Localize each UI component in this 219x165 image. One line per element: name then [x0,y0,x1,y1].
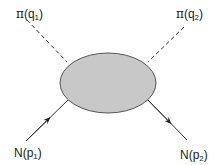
pion-in-line [27,20,67,62]
interaction-blob [60,53,156,113]
pion-out-line [148,27,184,62]
label-pion-out: π(q2) [176,7,203,22]
label-pion-in: π(q1) [16,7,43,22]
nucleon-out-line [145,97,187,140]
label-nucleon-in: N(p1) [14,146,42,161]
feynman-diagram: π(q1) π(q2) N(p1) N(p2) [0,0,219,165]
label-nucleon-out: N(p2) [180,148,208,163]
nucleon-in-line [26,100,68,141]
